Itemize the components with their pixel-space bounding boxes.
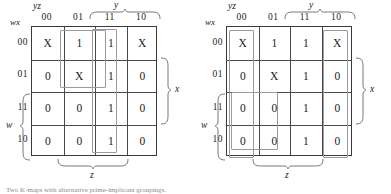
cell-r3c2-right: 1 <box>290 125 322 158</box>
cell-r0c3-left: X <box>127 27 159 60</box>
row-label-0-right: 00 <box>205 37 223 47</box>
cell-value: 1 <box>303 135 309 147</box>
kmap-right: yz wx 00 01 11 10 00 01 11 10 y x w z X … <box>195 0 391 194</box>
cell-r2c3-left: 0 <box>127 92 159 125</box>
col-label-0-right: 00 <box>226 12 258 22</box>
row-header-label-left: wx <box>10 17 20 27</box>
cell-r0c0-left: X <box>32 27 64 60</box>
var-label-w-right: w <box>201 120 207 130</box>
col-header-label-left: yz <box>33 1 41 11</box>
cell-r0c1-right: 1 <box>259 27 291 60</box>
cell-value: 0 <box>76 102 82 114</box>
brace-x-right <box>355 56 368 126</box>
cell-r2c2-right: 1 <box>290 92 322 125</box>
var-label-x-left: x <box>175 84 179 94</box>
cell-r0c2-right: 1 <box>290 27 322 60</box>
cell-value: 0 <box>139 70 145 82</box>
cell-value: 0 <box>139 135 145 147</box>
group-rows11-10-cols00-01-right <box>231 92 278 150</box>
cell-value: 1 <box>303 70 309 82</box>
cell-value: X <box>270 70 278 82</box>
figure-caption: Two K-maps with alternative prime-implic… <box>6 186 386 194</box>
group-col10-wrap-right <box>323 30 348 158</box>
cell-r1c2-right: 1 <box>290 60 322 93</box>
var-label-z-right: z <box>285 170 289 180</box>
cell-value: 0 <box>76 135 82 147</box>
brace-x-left <box>160 56 173 126</box>
kmap-left: yz wx 00 01 11 10 00 01 11 10 y x w z X … <box>0 0 196 194</box>
cell-value: X <box>138 37 146 49</box>
cell-value: 1 <box>303 37 309 49</box>
col-header-label-right: yz <box>228 1 236 11</box>
cell-r1c3-left: 0 <box>127 60 159 93</box>
row-label-1-right: 01 <box>205 69 223 79</box>
cell-value: 1 <box>271 37 277 49</box>
cell-value: 0 <box>139 102 145 114</box>
cell-value: 0 <box>45 135 51 147</box>
cell-r1c1-right: X <box>259 60 291 93</box>
cell-r1c0-left: 0 <box>32 60 64 93</box>
row-label-0-left: 00 <box>10 37 28 47</box>
cell-r2c0-left: 0 <box>32 92 64 125</box>
cell-r3c1-left: 0 <box>64 125 96 158</box>
var-label-y-left: y <box>114 0 118 10</box>
var-label-x-right: x <box>370 84 374 94</box>
var-label-w-left: w <box>6 120 12 130</box>
var-label-y-right: y <box>309 0 313 10</box>
group-rows00-01-cols01-11-left <box>60 30 106 88</box>
cell-value: X <box>44 37 52 49</box>
brace-w-left <box>18 92 31 162</box>
cell-r3c3-left: 0 <box>127 125 159 158</box>
var-label-z-left: z <box>90 170 94 180</box>
cell-value: 0 <box>45 102 51 114</box>
cell-value: 1 <box>303 102 309 114</box>
row-label-1-left: 01 <box>10 69 28 79</box>
col-label-0-left: 00 <box>31 12 63 22</box>
row-header-label-right: wx <box>205 17 215 27</box>
cell-value: 0 <box>45 70 51 82</box>
cell-r2c1-left: 0 <box>64 92 96 125</box>
cell-r3c0-left: 0 <box>32 125 64 158</box>
brace-y-right <box>283 8 357 20</box>
brace-w-right <box>213 92 226 162</box>
brace-y-left <box>88 8 162 20</box>
